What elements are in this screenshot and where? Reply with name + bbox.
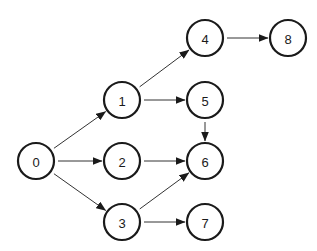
node-0: 0: [18, 143, 54, 179]
node-4: 4: [187, 20, 223, 56]
node-6: 6: [187, 143, 223, 179]
node-1: 1: [104, 82, 140, 118]
edges-group: [54, 38, 268, 222]
edge-0-to-3: [54, 174, 106, 211]
edge-1-to-4: [140, 50, 189, 87]
node-label: 5: [201, 94, 208, 109]
edge-line: [140, 50, 189, 87]
node-label: 7: [201, 216, 208, 231]
node-7: 7: [187, 204, 223, 240]
edge-line: [54, 112, 106, 149]
node-8: 8: [270, 20, 306, 56]
nodes-group: 012345678: [18, 20, 306, 240]
node-2: 2: [104, 143, 140, 179]
edge-0-to-1: [54, 112, 106, 149]
node-label: 1: [118, 94, 125, 109]
node-label: 3: [118, 216, 125, 231]
edge-line: [140, 173, 189, 209]
node-label: 4: [201, 32, 208, 47]
node-5: 5: [187, 82, 223, 118]
edge-3-to-6: [140, 173, 189, 209]
edge-line: [54, 174, 106, 211]
graph-canvas: 012345678: [0, 0, 317, 251]
node-label: 2: [118, 155, 125, 170]
node-3: 3: [104, 204, 140, 240]
node-label: 0: [32, 155, 39, 170]
node-label: 8: [284, 32, 291, 47]
node-label: 6: [201, 155, 208, 170]
